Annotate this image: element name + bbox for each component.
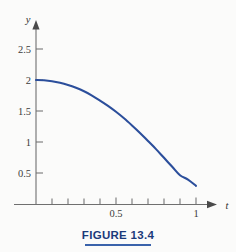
- y-tick-label-2.5: 2.5: [18, 44, 31, 55]
- chart-plot: 2.5 2 1.5 1 0.5 0.5 1 y t: [0, 0, 236, 226]
- y-axis-tick-labels: 2.5 2 1.5 1 0.5: [18, 44, 31, 179]
- y-axis-label: y: [25, 14, 31, 25]
- y-tick-label-2: 2: [26, 75, 31, 86]
- y-axis-ticks: [36, 49, 43, 173]
- x-tick-label-0.5: 0.5: [109, 208, 122, 219]
- figure-caption-rule: [85, 244, 151, 246]
- x-axis-arrow-icon: [207, 201, 217, 208]
- data-curve: [36, 80, 196, 186]
- figure-container: 2.5 2 1.5 1 0.5 0.5 1 y t FIGURE 13.4: [0, 0, 236, 252]
- y-axis-arrow-icon: [32, 20, 39, 30]
- axes-group: [14, 20, 217, 208]
- y-tick-label-1.5: 1.5: [18, 106, 31, 117]
- figure-caption-block: FIGURE 13.4: [0, 228, 236, 252]
- y-tick-label-1: 1: [26, 137, 31, 148]
- y-tick-label-0.5: 0.5: [18, 168, 31, 179]
- x-axis-ticks: [52, 198, 196, 205]
- figure-caption-text: FIGURE 13.4: [82, 228, 154, 242]
- x-axis-label: t: [226, 200, 230, 211]
- x-tick-label-1: 1: [193, 208, 198, 219]
- x-axis-tick-labels: 0.5 1: [109, 208, 198, 219]
